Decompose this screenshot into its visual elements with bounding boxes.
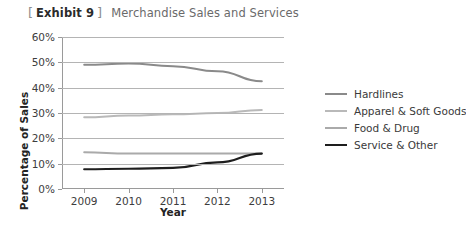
y-tick-mark	[58, 37, 62, 38]
legend-item[interactable]: Service & Other	[325, 139, 466, 151]
legend-item-label: Hardlines	[354, 88, 404, 100]
y-axis-tick-label: 0%	[38, 183, 55, 195]
x-axis-title: Year	[62, 206, 284, 218]
y-axis-tick-label: 50%	[32, 56, 55, 68]
legend-item-label: Food & Drug	[354, 122, 420, 134]
legend-color-swatch	[325, 110, 347, 112]
legend-item[interactable]: Apparel & Soft Goods	[325, 105, 466, 117]
plot-layers: 0%10%20%30%40%50%60% 2009201020112012201…	[62, 37, 284, 189]
y-axis-tick-label: 30%	[32, 107, 55, 119]
y-tick-mark	[58, 62, 62, 63]
legend-color-swatch	[325, 93, 347, 95]
gridline	[62, 113, 284, 114]
gridline	[62, 37, 284, 38]
legend-color-swatch	[325, 144, 347, 146]
x-tick-mark	[84, 189, 85, 193]
series-line	[84, 64, 262, 82]
y-axis-title: Percentage of Sales	[18, 88, 30, 214]
exhibit-header: [ Exhibit 9 ] Merchandise Sales and Serv…	[28, 5, 299, 20]
exhibit-number: Exhibit 9	[33, 6, 97, 20]
legend-item-label: Apparel & Soft Goods	[354, 105, 466, 117]
gridline	[62, 62, 284, 63]
y-tick-mark	[58, 164, 62, 165]
gridline	[62, 138, 284, 139]
x-tick-mark	[173, 189, 174, 193]
exhibit-tag: [ Exhibit 9 ]	[28, 5, 102, 20]
page-title: Merchandise Sales and Services	[111, 6, 299, 20]
y-tick-mark	[58, 138, 62, 139]
x-tick-mark	[262, 189, 263, 193]
chart-plot-area: 0%10%20%30%40%50%60% 2009201020112012201…	[62, 37, 284, 189]
legend-color-swatch	[325, 127, 347, 129]
legend-item[interactable]: Hardlines	[325, 88, 466, 100]
y-axis-title-wrap: Percentage of Sales	[8, 40, 22, 190]
legend-item[interactable]: Food & Drug	[325, 122, 466, 134]
series-line	[84, 154, 262, 170]
gridline	[62, 88, 284, 89]
series-line	[84, 152, 262, 153]
chart-legend: HardlinesApparel & Soft GoodsFood & Drug…	[325, 88, 466, 151]
y-axis-tick-label: 10%	[32, 158, 55, 170]
y-tick-mark	[58, 189, 62, 190]
y-axis-tick-label: 60%	[32, 31, 55, 43]
y-axis-tick-label: 40%	[32, 82, 55, 94]
y-tick-mark	[58, 88, 62, 89]
x-tick-mark	[217, 189, 218, 193]
y-axis-tick-label: 20%	[32, 132, 55, 144]
x-tick-mark	[129, 189, 130, 193]
y-tick-mark	[58, 113, 62, 114]
gridline	[62, 164, 284, 165]
legend-item-label: Service & Other	[354, 139, 437, 151]
bracket-close-icon: ]	[97, 5, 102, 20]
